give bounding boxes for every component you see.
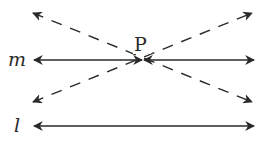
diagram-canvas (0, 0, 271, 141)
line-label-m: m (8, 48, 26, 70)
line-label-l: l (14, 114, 20, 136)
point-label-p: P (134, 33, 147, 55)
